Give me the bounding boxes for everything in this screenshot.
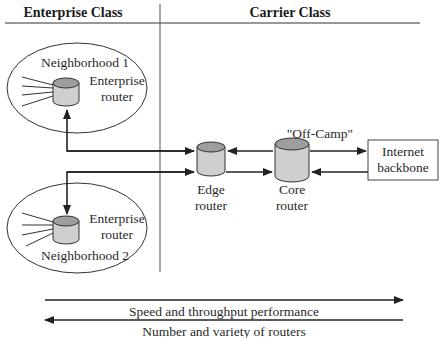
edge-router-label-line2: router xyxy=(195,198,228,213)
neighborhood-2-label: Neighborhood 2 xyxy=(41,248,129,263)
enterprise-class-header: Enterprise Class xyxy=(23,5,123,20)
edge-router-label-line1: Edge xyxy=(197,182,225,197)
internet-backbone-label-line1: Internet xyxy=(382,144,424,159)
edge-to-neighborhood-2-arrow xyxy=(67,172,194,214)
core-router-label-line1: Core xyxy=(279,182,305,197)
off-camp-label: "Off-Camp" xyxy=(287,126,353,141)
number-label: Number and variety of routers xyxy=(142,324,305,338)
enterprise-router-2-label-line1: Enterprise xyxy=(89,211,144,226)
internet-backbone-label-line2: backbone xyxy=(377,160,429,175)
enterprise-router-2-icon xyxy=(53,216,79,244)
core-router-icon xyxy=(275,138,309,182)
carrier-class-header: Carrier Class xyxy=(250,5,332,20)
network-diagram: Enterprise Class Carrier Class Neighborh… xyxy=(0,0,442,338)
neighborhood-2-links xyxy=(22,213,53,246)
core-router-label-line2: router xyxy=(276,198,309,213)
edge-to-neighborhood-1-arrow xyxy=(67,110,194,151)
neighborhood-1-links xyxy=(22,77,53,106)
edge-router-icon xyxy=(197,142,225,176)
neighborhood-1-label: Neighborhood 1 xyxy=(41,55,129,70)
enterprise-router-1-label-line2: router xyxy=(101,89,134,104)
enterprise-router-1-label-line1: Enterprise xyxy=(89,73,144,88)
speed-label: Speed and throughput performance xyxy=(129,304,319,319)
enterprise-router-1-icon xyxy=(53,78,79,106)
enterprise-router-2-label-line2: router xyxy=(101,227,134,242)
